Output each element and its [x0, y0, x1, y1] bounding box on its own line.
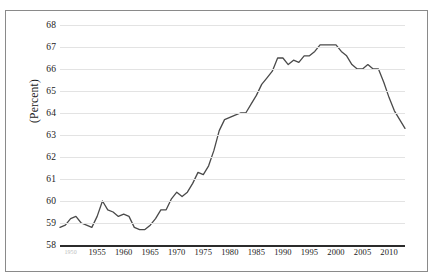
y-axis-tick-labels: 6867666564636261605958 [26, 25, 56, 245]
x-tick-1985: 1985 [248, 247, 265, 257]
x-tick-1950: 1950 [64, 249, 76, 255]
x-axis-tick-labels: 1950195519601965197019751980198519901995… [60, 247, 405, 261]
gridline-64 [60, 113, 405, 114]
y-tick-64: 64 [30, 108, 56, 118]
gridline-62 [60, 157, 405, 158]
figure-root: (Percent) 6867666564636261605958 1950195… [0, 0, 437, 280]
x-tick-1960: 1960 [115, 247, 132, 257]
x-tick-1995: 1995 [301, 247, 318, 257]
x-tick-1970: 1970 [168, 247, 185, 257]
y-tick-68: 68 [30, 20, 56, 30]
y-tick-67: 67 [30, 42, 56, 52]
x-tick-2000: 2000 [327, 247, 344, 257]
y-tick-63: 63 [30, 130, 56, 140]
plot-area [60, 25, 405, 245]
y-tick-66: 66 [30, 64, 56, 74]
x-tick-2010: 2010 [380, 247, 397, 257]
x-tick-1980: 1980 [221, 247, 238, 257]
figure-caption-clipped [10, 0, 427, 4]
x-tick-1990: 1990 [274, 247, 291, 257]
y-tick-61: 61 [30, 174, 56, 184]
gridline-63 [60, 135, 405, 136]
gridline-59 [60, 223, 405, 224]
y-tick-60: 60 [30, 196, 56, 206]
gridline-61 [60, 179, 405, 180]
gridline-66 [60, 69, 405, 70]
x-tick-1975: 1975 [195, 247, 212, 257]
x-tick-1965: 1965 [142, 247, 159, 257]
x-tick-1955: 1955 [88, 247, 105, 257]
y-tick-59: 59 [30, 218, 56, 228]
y-tick-65: 65 [30, 86, 56, 96]
y-tick-58: 58 [30, 240, 56, 250]
gridline-67 [60, 47, 405, 48]
y-tick-62: 62 [30, 152, 56, 162]
gridline-65 [60, 91, 405, 92]
x-tick-2005: 2005 [354, 247, 371, 257]
gridline-60 [60, 201, 405, 202]
gridline-68 [60, 25, 405, 26]
